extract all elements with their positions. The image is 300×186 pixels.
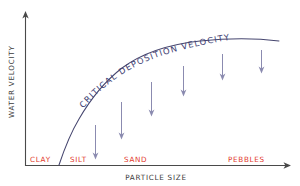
axes-group: [22, 11, 291, 169]
x-axis-title: PARTICLE SIZE: [125, 173, 187, 182]
y-axis-title: WATER VELOCITY: [7, 45, 16, 118]
deposition-arrow-3: [149, 82, 155, 117]
category-label-clay: CLAY: [30, 155, 51, 164]
diagram-canvas: CRITICAL DEPOSITION VELOCITY WATER VELOC…: [0, 0, 300, 186]
curve-path: [59, 39, 279, 165]
deposition-arrow-1: [93, 125, 99, 160]
deposition-arrows-group: [93, 50, 265, 160]
deposition-arrow-5: [220, 54, 226, 81]
category-label-pebbles: PEBBLES: [228, 155, 265, 164]
curve-label: CRITICAL DEPOSITION VELOCITY: [77, 32, 231, 110]
category-label-silt: SILT: [70, 155, 87, 164]
critical-deposition-velocity-curve: [59, 39, 279, 165]
category-label-sand: SAND: [124, 155, 147, 164]
deposition-arrow-2: [119, 102, 125, 140]
deposition-arrow-6: [259, 50, 265, 74]
deposition-arrow-4: [181, 66, 187, 97]
curve-label-text: CRITICAL DEPOSITION VELOCITY: [77, 32, 231, 110]
